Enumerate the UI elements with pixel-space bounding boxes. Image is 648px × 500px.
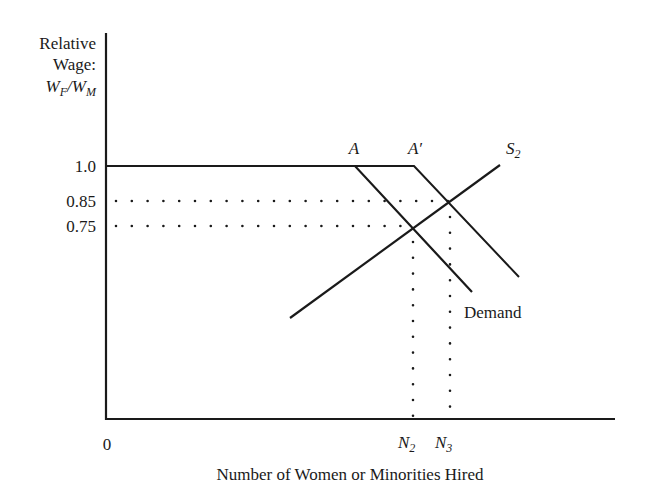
- x-origin-label: 0: [103, 435, 112, 454]
- y-tick-0-75: 0.75: [66, 217, 96, 236]
- demand-curve-a-prime: [355, 166, 519, 277]
- chart: Relative Wage: WF/WM 1.0 0.85 0.75 0 A A…: [0, 0, 648, 500]
- label-demand: Demand: [464, 303, 522, 322]
- label-s2: S2: [506, 139, 521, 161]
- y-axis-label-line1: Relative: [39, 34, 96, 53]
- y-tick-0-85: 0.85: [66, 192, 96, 211]
- x-axis-label: Number of Women or Minorities Hired: [217, 465, 484, 484]
- x-tick-n3: N3: [434, 433, 452, 455]
- x-tick-n2: N2: [397, 433, 415, 455]
- y-axis-label-line2: Wage:: [53, 55, 96, 74]
- label-a: A: [348, 139, 360, 158]
- y-axis-label-ratio: WF/WM: [46, 77, 97, 99]
- label-a-prime: A′: [407, 139, 422, 158]
- y-tick-1-0: 1.0: [75, 157, 96, 176]
- supply-curve-s2: [290, 165, 500, 318]
- demand-curve-a: [106, 166, 472, 292]
